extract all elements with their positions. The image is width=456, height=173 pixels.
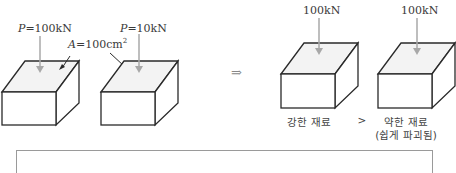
force-label-left-1: P=100kN (18, 22, 72, 35)
force-arrow-icon (135, 34, 143, 73)
area-label: A=100cm2 (68, 37, 127, 51)
force-label-left-2: P=10kN (120, 22, 167, 35)
implies-arrow-icon: ⇒ (231, 65, 242, 80)
force-label-right-2: 100kN (401, 4, 438, 17)
summary-box (16, 150, 433, 173)
force-arrow-icon (36, 36, 44, 73)
force-arrow-icon (413, 18, 421, 55)
force-label-right-1: 100kN (303, 4, 340, 17)
comparison-symbol: > (357, 114, 367, 126)
caption-strong-material: 강한 재료 (283, 114, 335, 129)
force-arrow-icon (315, 18, 323, 55)
caption-weak-note: (쉽게 파괴됨) (370, 127, 442, 142)
